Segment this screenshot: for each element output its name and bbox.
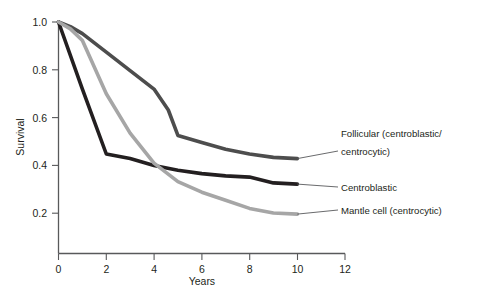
x-tick-label-0: 0 <box>56 263 62 275</box>
y-tick-label-0.8: 0.8 <box>32 64 47 76</box>
y-tick-label-1.0: 1.0 <box>32 16 47 28</box>
x-tick-label-12: 12 <box>339 263 351 275</box>
chart-background <box>0 0 478 287</box>
y-axis-title: Survival <box>14 118 26 155</box>
y-tick-label-0.6: 0.6 <box>32 112 47 124</box>
x-tick-label-4: 4 <box>151 263 157 275</box>
x-tick-label-8: 8 <box>247 263 253 275</box>
x-tick-label-10: 10 <box>292 263 304 275</box>
x-axis-title: Years <box>189 275 215 287</box>
legend-label-follicular-line2: centrocytic) <box>341 146 390 157</box>
legend-label-centroblastic: Centroblastic <box>341 182 397 193</box>
x-tick-label-2: 2 <box>103 263 109 275</box>
survival-chart: 1.0 0.8 0.6 0.4 0.2 0 2 4 6 8 10 12 Year… <box>0 0 478 287</box>
chart-canvas: 1.0 0.8 0.6 0.4 0.2 0 2 4 6 8 10 12 Year… <box>0 0 478 287</box>
legend-label-follicular-line1: Follicular (centroblastic/ <box>341 128 442 139</box>
y-tick-label-0.2: 0.2 <box>32 207 47 219</box>
y-tick-label-0.4: 0.4 <box>32 159 47 171</box>
x-tick-label-6: 6 <box>199 263 205 275</box>
legend-label-mantle-cell: Mantle cell (centrocytic) <box>341 205 442 216</box>
